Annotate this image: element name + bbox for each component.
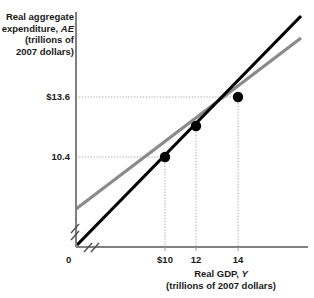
y-axis-symbol-ae: AE — [61, 23, 74, 34]
y-axis-title-line2: expenditure, — [2, 23, 61, 34]
y-axis-title-line4: 2007 dollars) — [16, 46, 74, 57]
data-point-12-12 — [191, 121, 201, 131]
aggregate-expenditure-line — [76, 38, 301, 209]
x-axis-title: Real GDP, Y (trillions of 2007 dollars) — [131, 268, 311, 291]
origin-label: 0 — [66, 254, 71, 265]
data-point-14-13-6 — [233, 92, 243, 102]
forty-five-degree-line — [77, 16, 301, 245]
x-tick-label-14: 14 — [218, 254, 258, 265]
aggregate-expenditure-chart: Real aggregate expenditure, AE (trillion… — [0, 0, 314, 298]
x-axis-title-line1: Real GDP, — [194, 268, 241, 279]
y-tick-label-10-4: 10.4 — [18, 151, 70, 162]
x-axis-title-line2: (trillions of 2007 dollars) — [166, 280, 276, 291]
x-axis-symbol-y: Y — [242, 268, 248, 279]
y-axis-title-line1: Real aggregate — [6, 11, 74, 22]
x-tick-label-12: 12 — [176, 254, 216, 265]
y-tick-label-13-6: $13.6 — [18, 91, 70, 102]
data-point-10-10-4 — [160, 152, 170, 162]
y-axis-title-line3: (trillions of — [25, 34, 74, 45]
y-axis-title: Real aggregate expenditure, AE (trillion… — [0, 11, 74, 57]
